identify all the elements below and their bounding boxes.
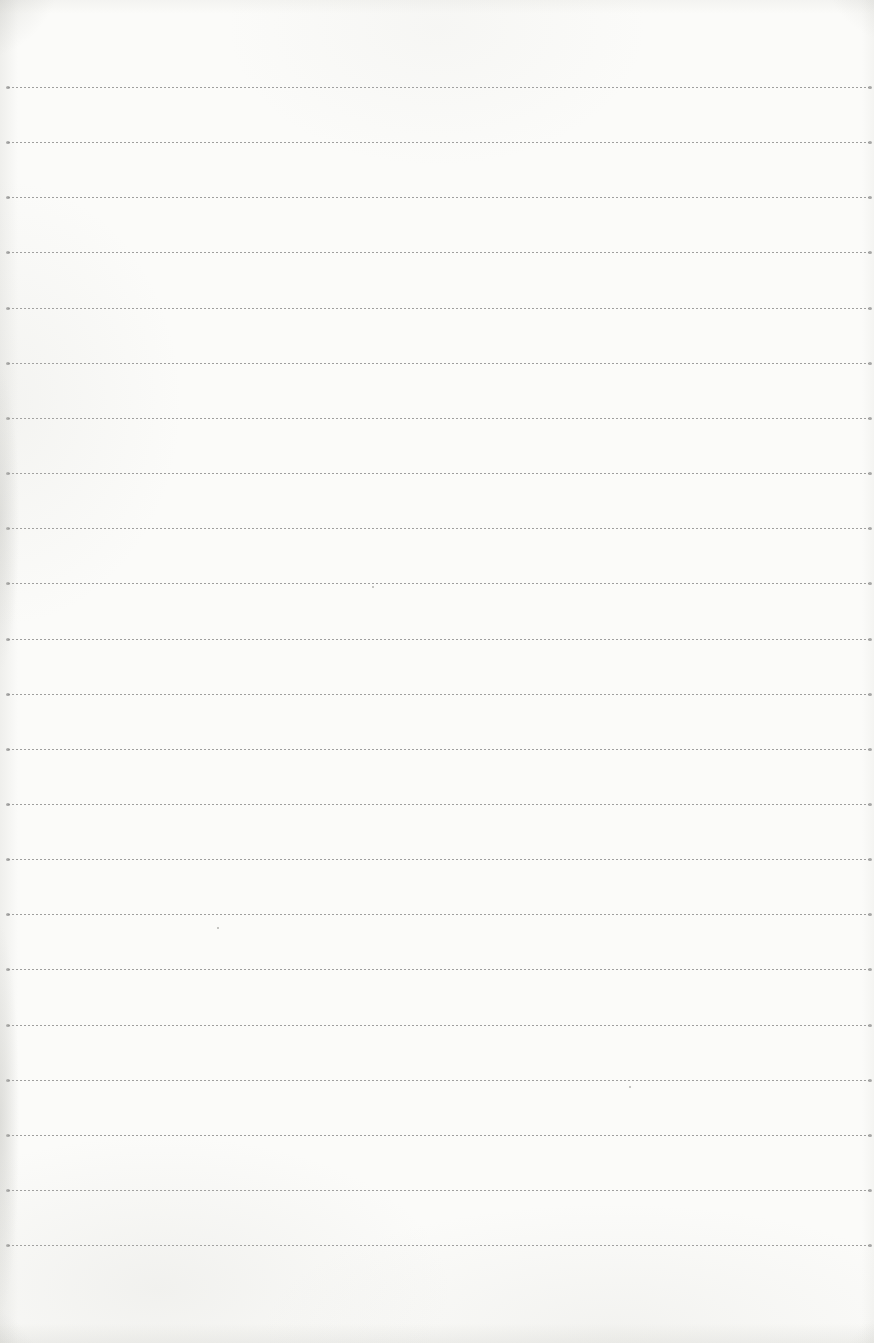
ruled-line	[8, 804, 869, 805]
ruled-lines	[0, 0, 874, 1343]
ruled-line	[8, 1190, 869, 1191]
ruled-line	[8, 859, 869, 860]
ruled-line	[8, 363, 869, 364]
ruled-line	[8, 694, 869, 695]
ruled-line	[8, 252, 869, 253]
ruled-line	[8, 914, 869, 915]
ruled-line	[8, 87, 869, 88]
ruled-line	[8, 142, 869, 143]
ruled-line	[8, 639, 869, 640]
ruled-line	[8, 969, 869, 970]
ruled-line	[8, 1080, 869, 1081]
ruled-line	[8, 197, 869, 198]
ruled-line	[8, 418, 869, 419]
ruled-line	[8, 308, 869, 309]
ruled-line	[8, 1245, 869, 1246]
notebook-paper-sheet	[0, 0, 874, 1343]
ruled-line	[8, 583, 869, 584]
ruled-line	[8, 1025, 869, 1026]
ruled-line	[8, 473, 869, 474]
ruled-line	[8, 528, 869, 529]
ruled-line	[8, 749, 869, 750]
ruled-line	[8, 1135, 869, 1136]
